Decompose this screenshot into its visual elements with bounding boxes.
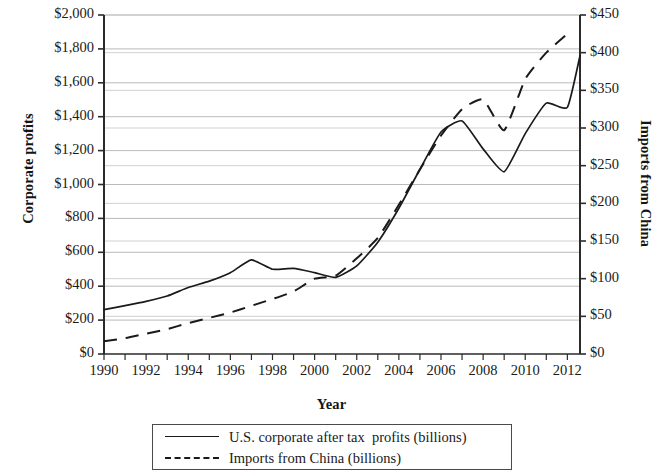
x-axis-title: Year: [0, 396, 663, 413]
y-axis-left-tick-label: $2,000: [16, 5, 94, 22]
y-axis-left-tick-label: $1,400: [16, 107, 94, 124]
series-line-imports-from-china: [104, 34, 567, 341]
legend-label-imports-from-china: Imports from China (billions): [229, 450, 401, 467]
chart-container: Corporate profits Imports from China Yea…: [0, 0, 663, 475]
y-axis-left-tick-label: $1,200: [16, 141, 94, 158]
y-axis-left-tick-label: $0: [16, 344, 94, 361]
legend-item-imports-from-china: Imports from China (billions): [163, 447, 401, 469]
y-axis-right-tick-label: $350: [590, 80, 660, 97]
legend-swatch-solid-line-icon: [163, 431, 221, 443]
y-axis-right-tick-label: $200: [590, 193, 660, 210]
y-axis-right-tick-label: $450: [590, 5, 660, 22]
y-axis-left-tick-label: $1,800: [16, 39, 94, 56]
legend-label-corporate-profits: U.S. corporate after tax profits (billio…: [229, 429, 467, 446]
x-axis-tick-label: 2012: [537, 362, 597, 379]
y-axis-right-tick-label: $300: [590, 118, 660, 135]
y-axis-left-tick-label: $800: [16, 208, 94, 225]
gridlines: [104, 15, 580, 354]
y-axis-left-tick-label: $1,600: [16, 73, 94, 90]
chart-legend: U.S. corporate after tax profits (billio…: [152, 424, 512, 470]
y-axis-right-tick-label: $250: [590, 156, 660, 173]
y-axis-right-tick-label: $400: [590, 43, 660, 60]
axis-ticks: [98, 15, 586, 360]
y-axis-right-tick-label: $50: [590, 306, 660, 323]
y-axis-right-tick-label: $150: [590, 231, 660, 248]
y-axis-left-tick-label: $200: [16, 310, 94, 327]
y-axis-right-tick-label: $100: [590, 269, 660, 286]
legend-item-corporate-profits: U.S. corporate after tax profits (billio…: [163, 426, 467, 448]
y-axis-left-tick-label: $1,000: [16, 175, 94, 192]
y-axis-left-tick-label: $600: [16, 242, 94, 259]
y-axis-right-tick-label: $0: [590, 344, 660, 361]
y-axis-left-tick-label: $400: [16, 276, 94, 293]
legend-swatch-dashed-line-icon: [163, 452, 221, 464]
